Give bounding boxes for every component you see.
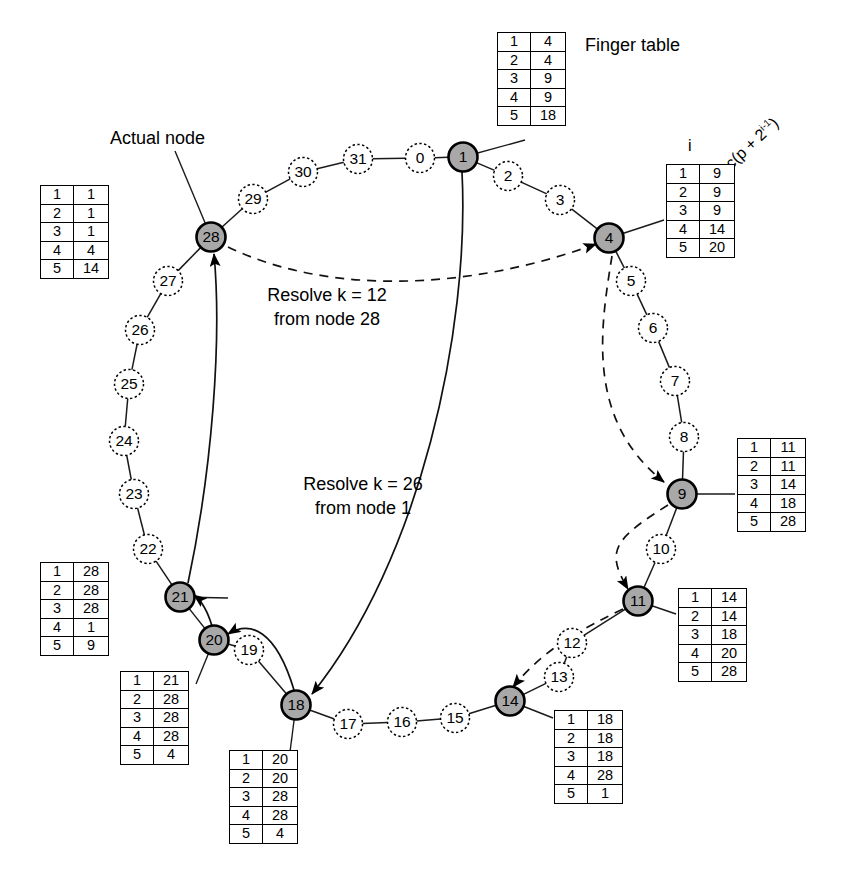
finger-index: 5: [667, 239, 700, 258]
node-label-0: 0: [416, 149, 425, 166]
actual-node-18[interactable]: 18: [282, 691, 311, 720]
actual-node-11[interactable]: 11: [624, 587, 653, 616]
finger-index: 1: [667, 165, 700, 184]
actual-node-4[interactable]: 4: [595, 224, 624, 253]
node-label-4: 4: [605, 229, 614, 246]
finger-successor: 9: [700, 165, 735, 184]
column-header-i: i: [688, 137, 692, 155]
table-row: 428: [230, 806, 298, 825]
virtual-node-7[interactable]: 7: [661, 367, 690, 396]
finger-successor: 28: [263, 806, 298, 825]
table-row: 528: [679, 663, 747, 682]
finger-successor: 28: [588, 766, 623, 785]
finger-table-node-4: 192939414520: [666, 164, 735, 258]
virtual-node-8[interactable]: 8: [670, 423, 699, 452]
actual-node-1[interactable]: 1: [449, 143, 478, 172]
finger-successor: 1: [74, 223, 109, 242]
virtual-node-6[interactable]: 6: [639, 314, 668, 343]
virtual-node-19[interactable]: 19: [235, 636, 264, 665]
finger-index: 4: [667, 220, 700, 239]
finger-index: 5: [555, 785, 588, 804]
virtual-node-24[interactable]: 24: [110, 427, 139, 456]
virtual-node-10[interactable]: 10: [647, 535, 676, 564]
finger-index: 4: [555, 766, 588, 785]
table-row: 328: [41, 600, 109, 619]
virtual-node-25[interactable]: 25: [115, 370, 144, 399]
actual-node-9[interactable]: 9: [668, 480, 697, 509]
virtual-node-15[interactable]: 15: [441, 704, 470, 733]
node-label-31: 31: [349, 150, 366, 167]
node-label-19: 19: [240, 641, 257, 658]
finger-index: 3: [41, 600, 74, 619]
virtual-node-5[interactable]: 5: [617, 267, 646, 296]
finger-successor: 28: [771, 513, 806, 532]
node-label-15: 15: [446, 709, 463, 726]
finger-successor: 18: [771, 494, 806, 513]
node-label-17: 17: [339, 715, 356, 732]
actual-node-label: Actual node: [110, 128, 205, 149]
virtual-node-30[interactable]: 30: [289, 158, 318, 187]
node-label-16: 16: [393, 713, 410, 730]
actual-node-14[interactable]: 14: [496, 687, 525, 716]
finger-index: 5: [230, 825, 263, 844]
table-row: 19: [667, 165, 735, 184]
finger-successor: 11: [771, 457, 806, 476]
node-label-18: 18: [287, 696, 304, 713]
virtual-node-17[interactable]: 17: [334, 710, 363, 739]
finger-index: 1: [121, 672, 154, 691]
finger-successor: 18: [588, 711, 623, 730]
node-label-10: 10: [652, 540, 670, 557]
finger-index: 1: [738, 439, 771, 458]
finger-index: 2: [41, 204, 74, 223]
finger-successor: 9: [531, 88, 566, 107]
virtual-node-12[interactable]: 12: [558, 629, 587, 658]
virtual-node-26[interactable]: 26: [126, 316, 155, 345]
table-row: 314: [738, 476, 806, 495]
virtual-node-16[interactable]: 16: [388, 708, 417, 737]
virtual-node-13[interactable]: 13: [545, 663, 574, 692]
finger-index: 3: [679, 626, 712, 645]
finger-successor: 20: [700, 239, 735, 258]
finger-successor: 28: [74, 563, 109, 582]
actual-node-21[interactable]: 21: [166, 583, 195, 612]
finger-table-node-9: 111211314418528: [737, 438, 806, 532]
finger-successor: 18: [588, 748, 623, 767]
finger-successor: 28: [154, 727, 189, 746]
virtual-node-27[interactable]: 27: [154, 267, 183, 296]
finger-index: 4: [121, 727, 154, 746]
table-row: 420: [679, 644, 747, 663]
finger-index: 4: [679, 644, 712, 663]
virtual-node-0[interactable]: 0: [406, 144, 435, 173]
finger-index: 2: [667, 183, 700, 202]
finger-successor: 9: [74, 637, 109, 656]
finger-successor: 1: [74, 618, 109, 637]
finger-successor: 1: [588, 785, 623, 804]
table-row: 41: [41, 618, 109, 637]
table-row: 228: [121, 690, 189, 709]
virtual-node-29[interactable]: 29: [239, 185, 268, 214]
ring-nodes: 0123456789101112131415161718192021222324…: [110, 143, 699, 739]
finger-index: 4: [230, 806, 263, 825]
virtual-node-2[interactable]: 2: [494, 162, 523, 191]
table-row: 114: [679, 589, 747, 608]
actual-node-20[interactable]: 20: [200, 626, 229, 655]
actual-node-28[interactable]: 28: [197, 223, 226, 252]
finger-successor: 20: [263, 769, 298, 788]
finger-successor: 4: [74, 241, 109, 260]
node-label-21: 21: [171, 588, 188, 605]
table-row: 51: [555, 785, 623, 804]
finger-successor: 4: [263, 825, 298, 844]
virtual-node-23[interactable]: 23: [120, 480, 149, 509]
finger-table-node-20: 12122832842854: [120, 671, 189, 765]
finger-index: 1: [230, 751, 263, 770]
finger-successor: 1: [74, 186, 109, 205]
virtual-node-22[interactable]: 22: [134, 535, 163, 564]
node-label-6: 6: [649, 319, 658, 336]
node-label-9: 9: [678, 485, 687, 502]
virtual-node-3[interactable]: 3: [546, 186, 575, 215]
finger-index: 1: [41, 186, 74, 205]
finger-index: 4: [738, 494, 771, 513]
table-row: 318: [555, 748, 623, 767]
virtual-node-31[interactable]: 31: [344, 145, 373, 174]
table-row: 54: [121, 746, 189, 765]
